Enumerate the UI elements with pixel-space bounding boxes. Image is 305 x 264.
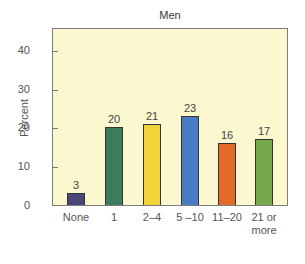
bar-5-10 (181, 116, 199, 205)
bar-value-none: 3 (61, 179, 91, 191)
y-tick-40: 40 (0, 44, 30, 56)
y-tick-mark-30 (52, 90, 58, 91)
x-category-21-or-more-line1: 21 or (242, 211, 286, 224)
y-tick-mark-40 (52, 51, 58, 52)
bar-21-or-more (255, 139, 273, 205)
bar-none (67, 193, 85, 205)
x-category-21-or-more: 21 or more (242, 211, 286, 237)
y-tick-20: 20 (0, 121, 30, 133)
bar-value-2-4: 21 (137, 110, 167, 122)
bar-1 (105, 127, 123, 205)
y-tick-mark-20 (52, 128, 58, 129)
chart-title: Men (52, 9, 288, 21)
x-category-21-or-more-line2: more (242, 224, 286, 237)
bar-value-21-or-more: 17 (249, 125, 279, 137)
bar-value-1: 20 (99, 113, 129, 125)
bar-value-11-20: 16 (212, 129, 242, 141)
y-tick-0: 0 (0, 199, 30, 211)
bar-chart: Men Percent 0 10 20 30 40 3 20 21 23 16 … (0, 0, 305, 264)
y-tick-30: 30 (0, 83, 30, 95)
y-tick-10: 10 (0, 160, 30, 172)
bar-11-20 (218, 143, 236, 205)
y-axis-label: Percent (18, 88, 30, 148)
bar-2-4 (143, 124, 161, 205)
bar-value-5-10: 23 (175, 102, 205, 114)
y-tick-mark-10 (52, 167, 58, 168)
